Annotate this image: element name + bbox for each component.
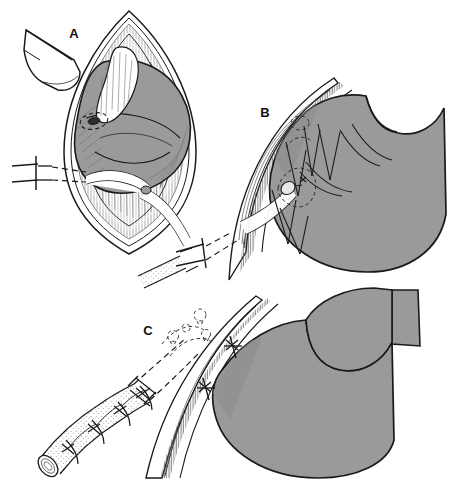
- panel-label-a: A: [69, 26, 79, 41]
- catheter-balloon-port: [141, 186, 151, 194]
- stomach-fundus-stub: [392, 290, 420, 346]
- panel-label-b: B: [260, 105, 269, 120]
- figure-canvas: A: [0, 0, 450, 483]
- surgical-figure: A: [0, 0, 450, 483]
- panel-label-c: C: [143, 323, 153, 338]
